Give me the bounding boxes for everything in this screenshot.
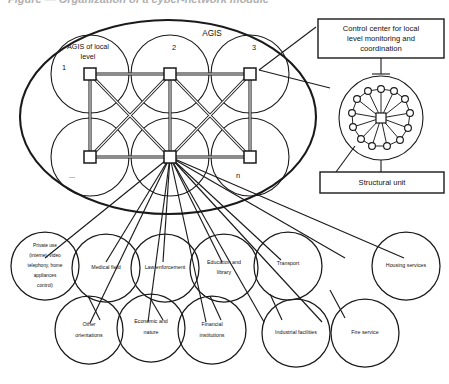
leaf-financial-institutions-line-1: Financial	[201, 321, 222, 327]
agis-node-1[interactable]	[84, 68, 96, 80]
leaf-transport-label: Transport	[277, 260, 300, 266]
leaf-education-library[interactable]: Education and library	[190, 234, 258, 302]
diagram-page: Figure — Organization of a cyber-network…	[0, 0, 449, 384]
agis-node-n[interactable]	[244, 151, 256, 163]
svg-text:AGIS of local: AGIS of local	[67, 42, 109, 51]
agis-node-label-3: 3	[252, 43, 256, 52]
leaf-private-use-line-3: telephony, home	[28, 263, 63, 268]
leaf-private-use[interactable]: Private use (internet, video telephony, …	[11, 232, 79, 300]
leaf-row-2: Other orientations Economic and nature F…	[55, 294, 399, 367]
agis-local-label: AGIS of local level	[67, 42, 109, 61]
leaf-private-use-line-5: control)	[37, 283, 53, 288]
leaf-economic-nature[interactable]: Economic and nature	[117, 294, 185, 362]
control-center-line-1: Control center for local	[343, 24, 420, 33]
leaf-education-library-line-1: Education and	[207, 259, 241, 265]
leaf-other-orientations-line-2: orientations	[75, 332, 103, 338]
leaf-fire-service[interactable]: Fire service	[331, 299, 399, 367]
agis-node-3[interactable]	[244, 68, 256, 80]
leaf-medical-field-label: Medical field	[91, 264, 120, 270]
agis-node-label-4: ...	[69, 171, 75, 180]
agis-node-label-n: n	[236, 171, 240, 180]
leaf-fire-service-label: Fire service	[351, 329, 378, 335]
agis-node-label-2: 2	[172, 43, 176, 52]
cyber-network-diagram: AGIS AGIS of local level 1 2 3 ... n Con…	[0, 0, 449, 384]
leaf-economic-nature-line-1: Economic and	[134, 318, 168, 324]
structural-unit-label: Structural unit	[359, 178, 407, 187]
callout-control-center[interactable]: Control center for local level monitorin…	[259, 19, 444, 88]
agis-node-2[interactable]	[164, 68, 176, 80]
leaf-row-1: Private use (internet, video telephony, …	[11, 232, 440, 302]
leaf-housing-services[interactable]: Housing services	[372, 232, 440, 300]
control-center-line-3: coordination	[360, 44, 401, 53]
svg-text:level: level	[81, 52, 96, 61]
structural-unit-hub	[376, 113, 386, 123]
control-center-line-2: level monitoring and	[347, 34, 415, 43]
callout-structural-unit[interactable]: Structural unit	[320, 146, 444, 193]
control-center-leader-lower	[259, 70, 330, 88]
structural-unit-detail	[339, 76, 423, 160]
structural-unit-leader	[336, 146, 355, 172]
leaf-economic-nature-line-2: nature	[143, 329, 158, 335]
leaf-other-orientations-line-1: Other	[82, 321, 95, 327]
agis-node-hub[interactable]	[164, 151, 176, 163]
leaf-private-use-line-4: appliances	[34, 273, 57, 278]
leaf-financial-institutions[interactable]: Financial institutions	[178, 296, 246, 364]
agis-outer-label: AGIS	[202, 29, 222, 38]
leaf-law-enforcement[interactable]: Law enforcement	[131, 234, 199, 302]
agis-node-4[interactable]	[84, 151, 96, 163]
leaf-housing-services-label: Housing services	[386, 262, 427, 268]
leaf-law-enforcement-label: Law enforcement	[145, 264, 186, 270]
leaf-private-use-line-1: Private use	[33, 243, 57, 248]
leaf-financial-institutions-line-2: institutions	[199, 332, 224, 338]
leaf-medical-field[interactable]: Medical field	[72, 234, 140, 302]
leaf-transport[interactable]: Transport	[254, 232, 322, 300]
leaf-education-library-line-2: library	[217, 269, 232, 275]
leaf-industrial-facilities[interactable]: Industrial facilities	[262, 299, 330, 367]
leaf-private-use-line-2: (internet, video	[29, 253, 61, 258]
leaf-other-orientations[interactable]: Other orientations	[55, 296, 123, 364]
agis-node-label-1: 1	[62, 63, 66, 72]
leaf-industrial-facilities-label: Industrial facilities	[275, 329, 317, 335]
agis-mesh-links	[90, 74, 250, 157]
